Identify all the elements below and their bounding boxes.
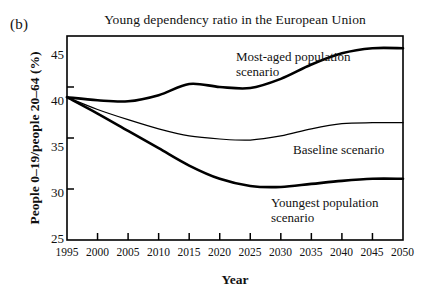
figure-panel: (b) Young dependency ratio in the Europe… [0, 0, 435, 295]
series-lines [67, 48, 403, 187]
x-axis-ticks [98, 233, 373, 240]
series-label-most-aged: Most-aged population scenario [236, 50, 350, 79]
series-label-youngest: Youngest population scenario [271, 196, 378, 225]
series-line-0 [67, 48, 403, 102]
series-line-1 [67, 97, 403, 140]
series-label-baseline: Baseline scenario [293, 143, 384, 158]
y-axis-ticks [67, 87, 74, 189]
